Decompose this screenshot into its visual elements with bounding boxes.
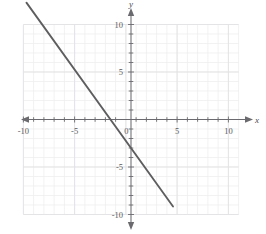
graph-figure: -10 -5 0 5 10 10 5 -5 -10 x y bbox=[0, 0, 266, 234]
y-tick-label--5: -5 bbox=[116, 162, 123, 172]
x-tick-label-10: 10 bbox=[224, 126, 233, 136]
y-axis-label: y bbox=[128, 0, 133, 9]
y-axis-arrow-down bbox=[128, 222, 134, 230]
plot-line bbox=[26, 3, 173, 207]
y-tick-label-10: 10 bbox=[115, 20, 124, 30]
plotted-line-series bbox=[26, 3, 173, 207]
x-axis bbox=[21, 116, 253, 122]
x-axis-label: x bbox=[254, 115, 259, 125]
y-axis-arrow-up bbox=[128, 8, 134, 16]
x-tick-label--10: -10 bbox=[18, 126, 29, 136]
y-tick-label--10: -10 bbox=[112, 210, 123, 220]
x-axis-tick-labels: -10 -5 0 5 10 bbox=[18, 126, 233, 136]
x-tick-label-0: 0 bbox=[124, 126, 128, 136]
y-tick-label-5: 5 bbox=[119, 67, 123, 77]
x-axis-arrow-right bbox=[245, 116, 253, 122]
x-tick-label--5: -5 bbox=[71, 126, 78, 136]
x-tick-label-5: 5 bbox=[175, 126, 179, 136]
x-axis-arrow-left bbox=[21, 116, 29, 122]
coordinate-plane-svg: -10 -5 0 5 10 10 5 -5 -10 x y bbox=[0, 0, 266, 234]
